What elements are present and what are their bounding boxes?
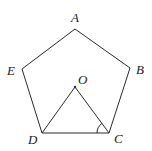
- label-o: O: [78, 72, 88, 87]
- label-e: E: [6, 63, 15, 78]
- angle-mark-ocd: [97, 123, 102, 133]
- pentagon-diagram: A B C D E O: [0, 0, 152, 151]
- label-b: B: [136, 62, 144, 77]
- label-d: D: [27, 132, 38, 147]
- label-a: A: [70, 10, 79, 25]
- segment-oc: [75, 87, 109, 133]
- segment-od: [42, 87, 75, 133]
- label-c: C: [114, 131, 123, 146]
- pentagon-abcde: [22, 29, 130, 133]
- center-point-o: [74, 86, 76, 88]
